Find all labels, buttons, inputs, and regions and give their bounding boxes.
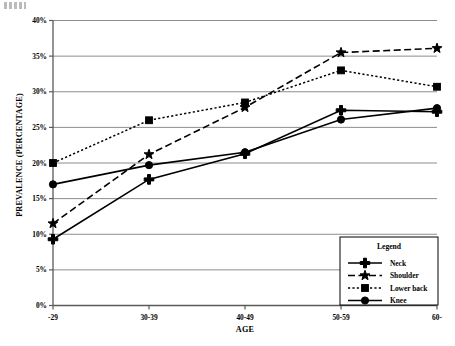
y-tick-label: 40% [32,16,47,25]
data-point-marker [433,105,440,112]
x-tick-label: 40-49 [236,313,254,322]
y-tick-label: 15% [32,194,47,203]
data-point-marker [145,162,152,169]
legend-title: Legend [377,242,402,251]
x-axis-title: AGE [236,325,255,334]
data-point-marker [361,297,368,304]
series-line [53,110,437,239]
data-point-marker [49,181,56,188]
data-point-marker [336,105,346,115]
series-knee [49,105,440,188]
series-line [53,48,437,223]
data-point-marker [144,175,154,185]
data-point-marker [144,149,154,158]
legend-label: Lower back [390,284,428,293]
x-tick-label: 60- [432,313,442,322]
legend: LegendNeckShoulderLower backKnee [340,237,438,305]
data-point-marker [242,99,249,106]
y-tick-label: 5% [36,265,47,274]
legend-label: Knee [390,296,407,305]
data-point-marker [50,160,57,167]
data-point-marker [338,67,345,74]
series-line [53,108,437,184]
x-axis-tick-labels: -2930-3940-4950-5960- [48,313,442,322]
data-point-marker [432,43,442,52]
data-point-marker [434,83,441,90]
series-shoulder [48,43,442,228]
x-tick-label: 30-39 [140,313,158,322]
y-axis-tick-labels: 0%5%10%15%20%25%30%35%40% [32,16,47,310]
gridlines-group [53,21,437,270]
legend-label: Shoulder [390,271,419,280]
data-point-marker [48,234,58,244]
data-point-marker [362,285,369,292]
y-tick-label: 35% [32,52,47,61]
y-tick-label: 0% [36,301,47,310]
y-tick-label: 20% [32,159,47,168]
x-tick-label: -29 [48,313,58,322]
y-tick-label: 30% [32,87,47,96]
data-point-marker [241,149,248,156]
legend-label: Neck [390,259,407,268]
prevalence-by-age-line-chart: 0%5%10%15%20%25%30%35%40% -2930-3940-495… [0,0,455,346]
x-tick-label: 50-59 [332,313,350,322]
series-neck [48,105,442,244]
y-tick-label: 25% [32,123,47,132]
y-axis-title: PREVALENCE (PERCENTAGE) [15,93,24,217]
data-point-marker [337,116,344,123]
data-series-group [48,43,442,244]
data-point-marker [146,117,153,124]
chart-canvas: 0%5%10%15%20%25%30%35%40% -2930-3940-495… [0,0,455,346]
y-tick-label: 10% [32,230,47,239]
